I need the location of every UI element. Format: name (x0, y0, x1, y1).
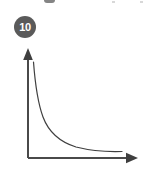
decay-curve-path (34, 62, 123, 152)
figure-panel: 10 (0, 0, 146, 171)
decay-curve-diagram (0, 0, 146, 171)
y-axis-arrowhead-icon (23, 48, 33, 60)
x-axis-arrowhead-icon (126, 153, 138, 163)
